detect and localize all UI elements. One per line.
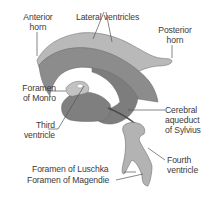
- third-ventricle-shape: [61, 92, 110, 122]
- label-anterior-horn-line1: Anterior: [20, 12, 56, 22]
- label-third-ventricle: Third ventricle: [4, 120, 55, 140]
- label-anterior-horn: Anterior horn: [20, 12, 56, 32]
- label-cerebral-aqueduct-line2: aqueduct: [165, 115, 201, 125]
- label-third-ventricle-line2: ventricle: [4, 130, 55, 140]
- leader-foramen-of-magendie: [116, 174, 143, 180]
- label-foramen-of-magendie: Foramen of Magendie: [27, 175, 109, 185]
- label-foramen-of-monro-line1: Foramen: [4, 83, 56, 93]
- label-posterior-horn-line1: Posterior: [157, 25, 193, 35]
- fourth-ventricle-shape: [122, 123, 152, 187]
- label-cerebral-aqueduct: Cerebral aqueduct of Sylvius: [165, 105, 201, 135]
- label-anterior-horn-line2: horn: [20, 22, 56, 32]
- interventricular-opening: [77, 84, 83, 88]
- label-fourth-ventricle-line1: Fourth: [167, 155, 198, 165]
- label-lateral-ventricles: Lateral ventricles: [76, 12, 139, 22]
- label-posterior-horn: Posterior horn: [157, 25, 193, 45]
- label-foramen-of-monro-line2: of Monro: [4, 93, 56, 103]
- label-posterior-horn-line2: horn: [157, 35, 193, 45]
- leader-fourth-ventricle: [148, 148, 165, 160]
- label-fourth-ventricle: Fourth ventricle: [167, 155, 198, 175]
- label-foramen-of-monro: Foramen of Monro: [4, 83, 56, 103]
- label-cerebral-aqueduct-line3: of Sylvius: [165, 125, 201, 135]
- label-cerebral-aqueduct-line1: Cerebral: [165, 105, 201, 115]
- label-foramen-of-luschka: Foramen of Luschka: [32, 164, 109, 174]
- label-third-ventricle-line1: Third: [4, 120, 55, 130]
- label-fourth-ventricle-line2: ventricle: [167, 165, 198, 175]
